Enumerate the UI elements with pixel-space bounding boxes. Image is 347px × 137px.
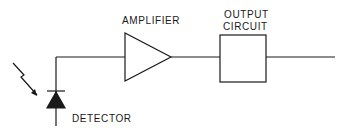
output-circuit-label-line2: CIRCUIT [223,21,268,32]
amplifier-block [125,33,171,81]
amplifier-label: AMPLIFIER [122,15,180,26]
photodiode-icon [47,91,65,108]
light-arrow-icon [13,63,37,96]
output-circuit-block [220,35,266,82]
detector-label: DETECTOR [72,113,132,124]
output-circuit-label-line1: OUTPUT [224,9,269,20]
